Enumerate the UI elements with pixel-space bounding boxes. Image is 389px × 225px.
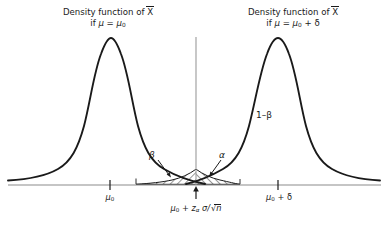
- statistical-power-diagram: Density function of X if μ = μ0 Density …: [0, 0, 389, 225]
- x-bar-symbol: X: [147, 7, 153, 18]
- right-caption-line1: Density function of X: [248, 7, 338, 17]
- power-label: 1–β: [256, 110, 272, 121]
- distribution-plot-svg: [0, 0, 389, 225]
- left-caption-line1: Density function of X: [63, 7, 153, 17]
- left-caption-mu0-subscript: 0: [122, 22, 126, 28]
- null-distribution-curve: [8, 38, 205, 184]
- right-distribution-caption: Density function of X if μ = μ0 + δ: [218, 7, 368, 29]
- tick-label-right-rest: + δ: [275, 192, 292, 202]
- tick-label-mu0-plus-delta: μ0 + δ: [256, 192, 302, 203]
- tick-label-mu0-subscript: 0: [111, 196, 115, 202]
- left-caption-equals: =: [104, 18, 117, 28]
- tick-label-critical-value: μ0 + zα σ/√n: [146, 203, 246, 214]
- critical-n: n: [216, 203, 221, 213]
- right-caption-equals: =: [280, 18, 293, 28]
- beta-leader-arrow: [158, 160, 171, 178]
- critical-value-arrow: [193, 186, 199, 199]
- alternative-distribution-curve: [186, 38, 380, 184]
- alpha-label: α: [219, 150, 225, 161]
- right-caption-text: Density function of X: [248, 7, 338, 17]
- beta-label: β: [149, 150, 155, 161]
- critical-sqrt-group: √n: [210, 203, 221, 213]
- critical-plus: +: [179, 203, 191, 213]
- critical-sigma-over: σ/: [199, 203, 210, 213]
- x-bar-symbol: X: [332, 7, 338, 18]
- right-caption-plus-delta: + δ: [302, 18, 320, 28]
- left-caption-text: Density function of X: [63, 7, 153, 17]
- right-caption-line2: if μ = μ0 + δ: [218, 18, 368, 30]
- tick-label-mu0: μ0: [95, 192, 125, 203]
- left-distribution-caption: Density function of X if μ = μ0: [38, 7, 178, 29]
- left-caption-line2: if μ = μ0: [38, 18, 178, 30]
